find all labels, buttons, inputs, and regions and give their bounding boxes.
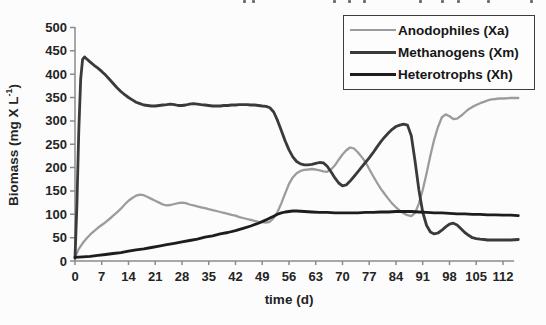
biomass-line-chart-figure: 0714212835424956637077849198105112050100… bbox=[0, 0, 546, 325]
y-axis-title-superscript: -1 bbox=[4, 88, 14, 96]
series-line-heterotrophs bbox=[75, 211, 518, 257]
x-tick-label: 56 bbox=[282, 269, 296, 284]
methanogens-line-sample bbox=[350, 51, 396, 54]
x-tick-label: 49 bbox=[255, 269, 269, 284]
y-tick-label: 300 bbox=[45, 113, 67, 128]
heterotrophs-line-sample bbox=[350, 73, 396, 76]
x-tick-label: 91 bbox=[415, 269, 429, 284]
series-line-anodophiles bbox=[75, 98, 518, 257]
x-tick-label: 98 bbox=[442, 269, 456, 284]
legend-item-methanogens: Methanogens (Xm) bbox=[350, 45, 528, 60]
y-tick-label: 200 bbox=[45, 160, 67, 175]
y-axis-title-text: Biomass (mg X L bbox=[6, 97, 21, 207]
y-axis-title: Biomass (mg X L-1) bbox=[4, 25, 22, 265]
y-tick-label: 350 bbox=[45, 90, 67, 105]
legend-item-heterotrophs: Heterotrophs (Xh) bbox=[350, 67, 528, 82]
x-axis-title: time (d) bbox=[75, 292, 503, 307]
y-tick-label: 50 bbox=[53, 230, 67, 245]
y-axis-title-close: ) bbox=[6, 84, 21, 89]
x-tick-label: 21 bbox=[148, 269, 162, 284]
x-tick-label: 42 bbox=[228, 269, 242, 284]
x-tick-label: 28 bbox=[175, 269, 189, 284]
y-tick-label: 0 bbox=[60, 254, 67, 269]
x-tick-label: 112 bbox=[493, 269, 514, 284]
x-tick-label: 105 bbox=[465, 269, 487, 284]
x-tick-label: 84 bbox=[389, 269, 404, 284]
y-tick-label: 100 bbox=[45, 207, 67, 222]
x-tick-label: 14 bbox=[121, 269, 136, 284]
legend-label-anodophiles: Anodophiles (Xa) bbox=[398, 23, 509, 38]
y-tick-label: 500 bbox=[45, 20, 67, 35]
legend: Anodophiles (Xa) Methanogens (Xm) Hetero… bbox=[343, 15, 535, 90]
y-tick-label: 250 bbox=[45, 137, 67, 152]
y-tick-label: 150 bbox=[45, 183, 67, 198]
legend-label-methanogens: Methanogens (Xm) bbox=[398, 45, 519, 60]
x-tick-label: 70 bbox=[335, 269, 349, 284]
y-tick-label: 400 bbox=[45, 67, 67, 82]
x-tick-label: 7 bbox=[98, 269, 105, 284]
legend-label-heterotrophs: Heterotrophs (Xh) bbox=[398, 67, 513, 82]
legend-item-anodophiles: Anodophiles (Xa) bbox=[350, 23, 528, 38]
x-tick-label: 0 bbox=[71, 269, 78, 284]
y-tick-label: 450 bbox=[45, 43, 67, 58]
x-tick-label: 63 bbox=[308, 269, 322, 284]
anodophiles-line-sample bbox=[350, 29, 396, 31]
x-tick-label: 77 bbox=[362, 269, 376, 284]
x-tick-label: 35 bbox=[201, 269, 215, 284]
